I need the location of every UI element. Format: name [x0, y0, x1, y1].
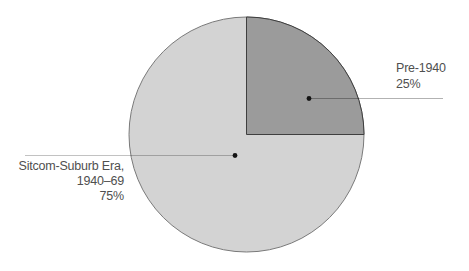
pie-chart-svg	[0, 0, 469, 271]
callout-sitcom-suburb-value: 75%	[0, 189, 124, 204]
pie-slice-pre-1940	[247, 17, 365, 135]
callout-pre-1940-label: Pre-1940	[396, 60, 446, 76]
pie-chart-figure: Pre-1940 25% Sitcom-Suburb Era, 1940–69 …	[0, 0, 469, 271]
callout-pre-1940-value: 25%	[396, 76, 446, 92]
callout-sitcom-suburb-label-line2: 1940–69	[0, 174, 124, 189]
callout-pre-1940: Pre-1940 25%	[396, 60, 446, 92]
leader-dot-sitcom-suburb	[233, 153, 238, 158]
leader-dot-pre-1940	[307, 96, 312, 101]
callout-sitcom-suburb-label-line1: Sitcom-Suburb Era,	[0, 159, 124, 174]
callout-sitcom-suburb: Sitcom-Suburb Era, 1940–69 75%	[0, 159, 124, 204]
